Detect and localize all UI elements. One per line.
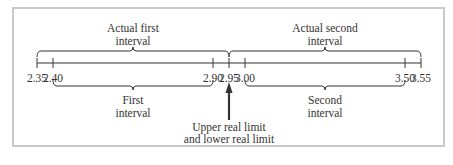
number-line-diagram: 2.352.402.902.953.003.503.55Actual first…: [0, 0, 453, 165]
tick-label: 3.55: [411, 72, 431, 84]
brace-label-actual-second: interval: [307, 35, 342, 47]
tick-label: 2.40: [43, 72, 63, 84]
brace-actual-second: [229, 47, 421, 57]
brace-label-first: First: [122, 94, 144, 106]
tick-label: 3.00: [235, 72, 255, 84]
brace-label-second: interval: [307, 107, 342, 119]
brace-second: [245, 80, 405, 90]
brace-label-second: Second: [308, 94, 342, 106]
brace-actual-first: [37, 47, 229, 57]
brace-label-actual-second: Actual second: [292, 22, 358, 34]
brace-label-actual-first: Actual first: [107, 22, 160, 34]
brace-label-first: interval: [115, 107, 150, 119]
brace-label-actual-first: interval: [115, 35, 150, 47]
brace-first: [53, 80, 213, 90]
arrow-label: and lower real limit: [184, 133, 275, 145]
